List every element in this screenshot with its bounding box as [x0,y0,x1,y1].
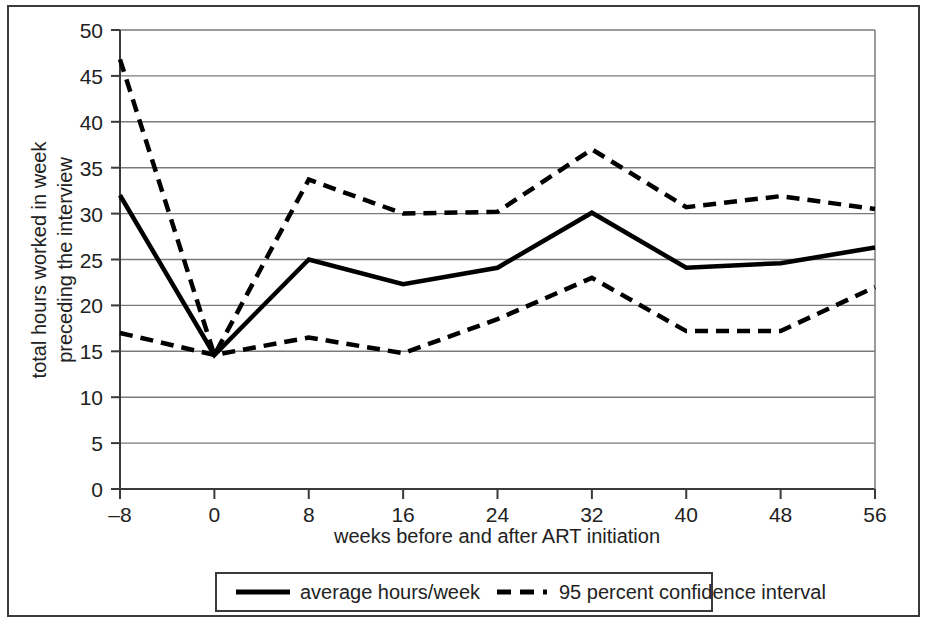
y-tick-label-10: 10 [80,386,103,409]
legend-label-confidence-interval: 95 percent confidence interval [559,581,826,603]
x-tick-label-16: 16 [391,503,414,526]
y-tick-label-0: 0 [91,478,103,501]
line-chart: 05101520253035404550 –808162432404856 we… [0,0,927,623]
y-tick-label-50: 50 [80,19,103,42]
x-tick-label--8: –8 [108,503,131,526]
x-tick-label-0: 0 [209,503,221,526]
y-axis-title-line-1: total hours worked in week [28,141,50,379]
x-axis-title: weeks before and after ART initiation [333,525,660,547]
x-tick-label-32: 32 [580,503,603,526]
y-tick-label-45: 45 [80,65,103,88]
y-tick-label-5: 5 [91,432,103,455]
x-tick-label-24: 24 [486,503,510,526]
figure-container: 05101520253035404550 –808162432404856 we… [0,0,927,623]
y-axis-title-line-2: preceding the interview [54,157,76,363]
x-tick-label-56: 56 [863,503,886,526]
legend-label-average-hours: average hours/week [300,581,481,603]
y-tick-label-40: 40 [80,111,103,134]
y-tick-label-35: 35 [80,157,103,180]
y-tick-label-15: 15 [80,340,103,363]
y-tick-label-25: 25 [80,249,103,272]
x-tick-label-48: 48 [769,503,792,526]
x-axis-tick-marks [120,489,875,499]
x-tick-label-8: 8 [303,503,315,526]
y-axis-tick-marks [111,30,120,489]
y-tick-label-20: 20 [80,294,103,317]
x-tick-label-40: 40 [675,503,698,526]
chart-legend: average hours/week 95 percent confidence… [216,573,826,611]
y-axis-tick-labels: 05101520253035404550 [80,19,103,501]
x-axis-tick-labels: –808162432404856 [108,503,886,526]
y-tick-label-30: 30 [80,203,103,226]
